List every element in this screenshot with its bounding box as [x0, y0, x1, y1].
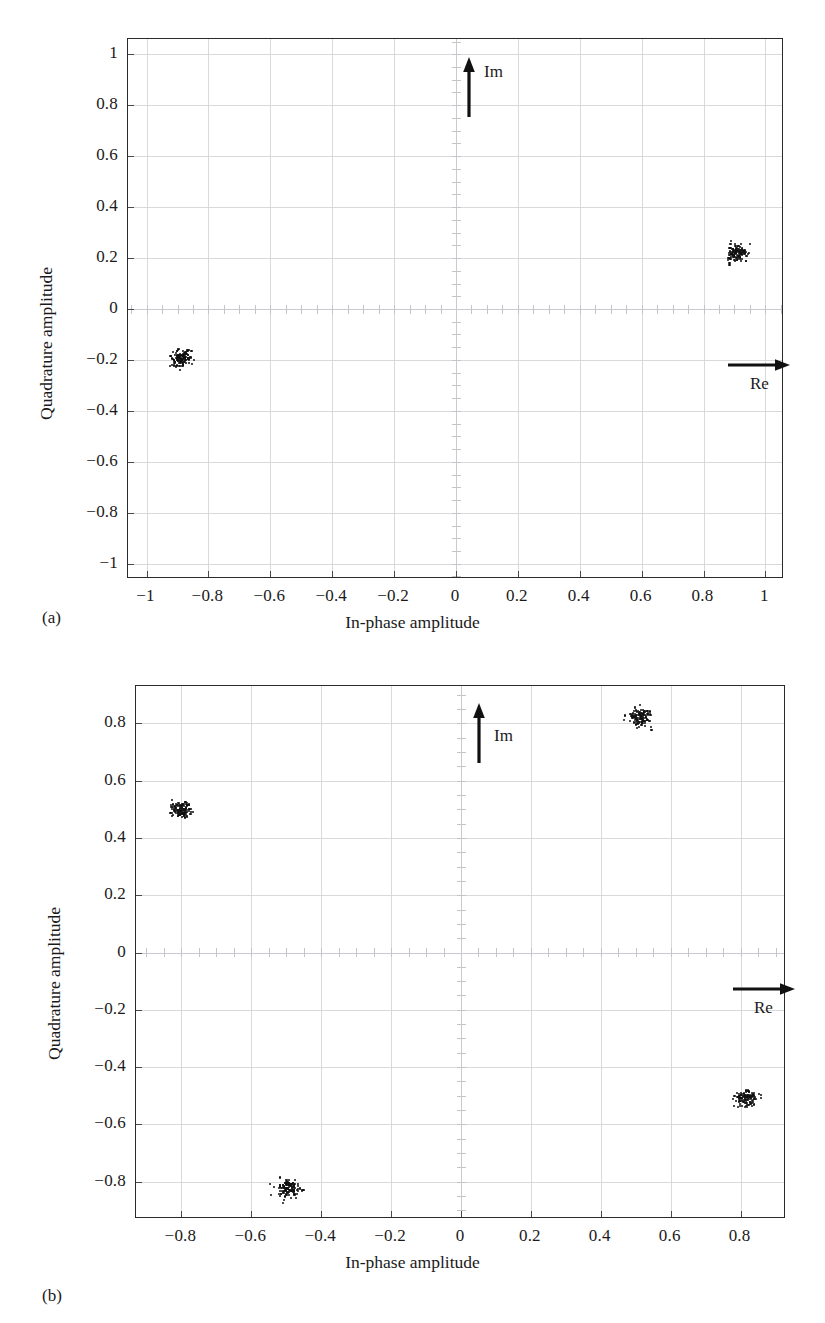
- minor-tick-x: [444, 948, 445, 957]
- gridline-vertical: [394, 39, 395, 577]
- minor-tick-y: [452, 347, 461, 348]
- x-tick-label: −0.6: [234, 1226, 266, 1246]
- minor-tick-x: [566, 948, 567, 957]
- minor-tick-y: [452, 118, 461, 119]
- im-label-a: Im: [484, 62, 503, 82]
- im-arrow-a: [461, 57, 477, 119]
- x-tick-label: −0.8: [165, 1226, 197, 1246]
- minor-tick-y: [452, 436, 461, 437]
- minor-tick-y: [452, 54, 461, 55]
- minor-tick-x: [270, 305, 271, 314]
- axis-tick-y: [136, 1010, 142, 1011]
- gridline-vertical: [456, 39, 457, 577]
- y-tick-label: −1: [0, 553, 118, 573]
- minor-tick-x: [181, 948, 182, 957]
- minor-tick-y: [457, 1153, 466, 1154]
- annotations-b: Im Re: [136, 686, 784, 1217]
- minor-tick-x: [518, 305, 519, 314]
- minor-tick-y: [452, 513, 461, 514]
- annotations-a: Im Re: [128, 39, 782, 577]
- y-tick-label: −0.2: [0, 349, 118, 369]
- minor-tick-x: [339, 948, 340, 957]
- minor-tick-y: [452, 334, 461, 335]
- minor-tick-y: [452, 526, 461, 527]
- minor-tick-y: [457, 838, 466, 839]
- constellation-cluster: [729, 245, 744, 260]
- plot-area-a: Im Re: [127, 38, 783, 578]
- gridline-vertical: [208, 39, 209, 577]
- axis-tick-x: [601, 1211, 602, 1217]
- minor-tick-y: [457, 1010, 466, 1011]
- axis-tick-x: [394, 571, 395, 577]
- minor-tick-y: [457, 1182, 466, 1183]
- gridline-vertical: [391, 686, 392, 1217]
- x-tick-label: 0.2: [519, 1226, 541, 1246]
- minor-tick-x: [626, 305, 627, 314]
- minor-tick-x: [513, 948, 514, 957]
- y-tick-label: 0: [0, 298, 118, 318]
- axis-tick-x: [332, 571, 333, 577]
- minor-tick-y: [457, 967, 466, 968]
- minor-tick-x: [704, 305, 705, 314]
- axis-tick-y: [136, 1124, 142, 1125]
- axis-tick-y: [128, 513, 134, 514]
- minor-tick-y: [457, 938, 466, 939]
- panel-b: Im Re −0.8−0.6−0.4−0.200.20.40.60.8 −0.8…: [0, 648, 825, 1323]
- x-tick-label: −0.4: [304, 1226, 336, 1246]
- minor-tick-x: [199, 948, 200, 957]
- minor-tick-x: [531, 948, 532, 957]
- gridline-horizontal: [128, 564, 782, 565]
- gridline-horizontal: [128, 360, 782, 361]
- minor-tick-x: [224, 305, 225, 314]
- gridline-horizontal: [136, 781, 784, 782]
- minor-tick-x: [317, 305, 318, 314]
- axis-tick-y: [136, 1067, 142, 1068]
- minor-tick-y: [457, 895, 466, 896]
- minor-tick-y: [452, 143, 461, 144]
- y-tick-label: −0.6: [0, 1113, 126, 1133]
- gridline-horizontal: [136, 1124, 784, 1125]
- minor-tick-y: [452, 551, 461, 552]
- gridline-horizontal: [136, 953, 784, 954]
- x-tick-label: 0.4: [589, 1226, 611, 1246]
- minor-tick-x: [549, 305, 550, 314]
- y-tick-label: 0.6: [0, 145, 118, 165]
- x-axis-title-a: In-phase amplitude: [0, 612, 825, 633]
- axis-tick-y: [128, 462, 134, 463]
- minor-tick-y: [457, 766, 466, 767]
- minor-tick-x: [409, 948, 410, 957]
- y-tick-label: 0.2: [0, 884, 126, 904]
- x-tick-label: 0.6: [630, 586, 652, 606]
- minor-tick-x: [671, 948, 672, 957]
- axis-tick-x: [251, 1211, 252, 1217]
- axis-tick-x: [531, 1211, 532, 1217]
- minor-tick-y: [457, 1124, 466, 1125]
- minor-tick-x: [750, 305, 751, 314]
- minor-tick-x: [332, 305, 333, 314]
- gridlines-b: [136, 686, 784, 1217]
- zero-axis-horizontal: [136, 953, 784, 954]
- minor-tick-x: [496, 948, 497, 957]
- re-label-a: Re: [750, 374, 769, 394]
- minor-tick-x: [688, 305, 689, 314]
- re-label-b: Re: [754, 998, 773, 1018]
- axis-tick-y: [128, 54, 134, 55]
- axis-tick-y: [136, 1182, 142, 1183]
- axis-tick-x: [671, 1211, 672, 1217]
- minor-tick-y: [452, 182, 461, 183]
- constellation-cluster: [172, 350, 187, 365]
- re-arrow-a: [728, 357, 790, 373]
- minor-tick-x: [301, 305, 302, 314]
- x-tick-label: 0.8: [692, 586, 714, 606]
- axis-tick-x: [461, 1211, 462, 1217]
- minor-tick-x: [758, 948, 759, 957]
- minor-tick-x: [321, 948, 322, 957]
- y-tick-label: −0.8: [0, 1171, 126, 1191]
- minor-tick-x: [487, 305, 488, 314]
- constellation-cluster: [279, 1179, 294, 1194]
- minor-tick-y: [457, 723, 466, 724]
- minor-tick-x: [374, 948, 375, 957]
- x-tick-label: −0.2: [374, 1226, 406, 1246]
- minor-tick-x: [162, 305, 163, 314]
- minor-tick-y: [452, 500, 461, 501]
